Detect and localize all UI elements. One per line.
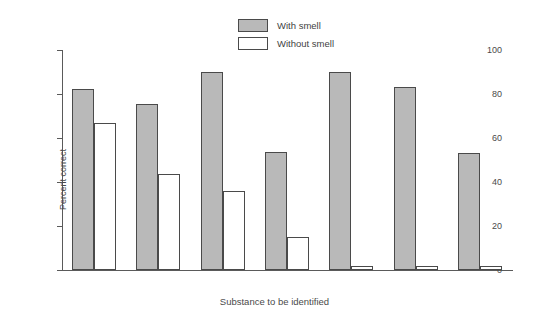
filled-gray-swatch-icon [238,19,268,32]
y-axis-tick-label: 40 [492,177,502,187]
bar-chocolate-without-smell [416,266,438,270]
bar-wine-with-smell [265,152,287,270]
x-axis-line [62,270,513,271]
legend-label-with-smell: With smell [277,20,321,31]
legend-item-with-smell: With smell [238,18,334,32]
bar-water-without-smell [94,123,116,270]
y-axis-title: Percent correct [58,149,68,210]
y-axis-tick [57,182,62,183]
x-axis-title: Substance to be identified [0,296,549,307]
empty-white-swatch-icon [238,37,268,50]
bar-vinegar-without-smell [158,174,180,270]
y-axis-tick-label: 20 [492,221,502,231]
y-axis-tick-label: 100 [487,45,502,55]
bar-garlic-with-smell [458,153,480,270]
y-axis-tick [57,50,62,51]
bar-garlic-without-smell [480,266,502,270]
y-axis-tick [57,270,62,271]
y-axis-tick-label: 60 [492,133,502,143]
bar-coffee-with-smell [329,72,351,270]
bar-wine-without-smell [287,237,309,270]
y-axis-tick [57,226,62,227]
bar-chart: With smell Without smell Percent correct… [0,0,549,316]
y-axis-tick [57,94,62,95]
bar-whiskey-without-smell [223,191,245,270]
chart-legend: With smell Without smell [238,18,334,54]
plot-area: Percent correct 020406080100WaterVinegar… [62,50,512,270]
y-axis-tick-label: 80 [492,89,502,99]
bar-water-with-smell [72,89,94,271]
bar-coffee-without-smell [351,266,373,270]
bar-chocolate-with-smell [394,87,416,270]
legend-item-without-smell: Without smell [238,36,334,50]
bar-whiskey-with-smell [201,72,223,270]
bar-vinegar-with-smell [136,104,158,270]
legend-label-without-smell: Without smell [277,38,334,49]
y-axis-tick [57,138,62,139]
